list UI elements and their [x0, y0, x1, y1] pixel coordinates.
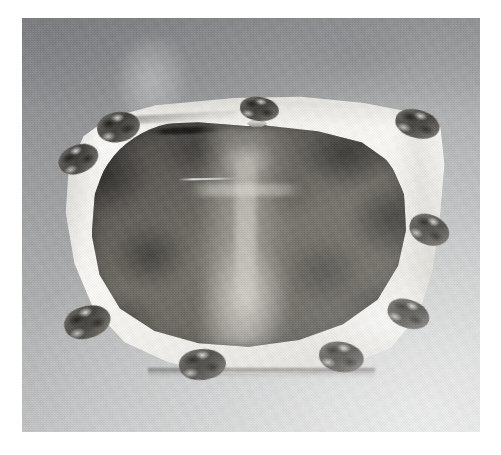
photograph — [22, 18, 480, 432]
photo-page: Irregular rounded-rectangular stretched … — [0, 0, 501, 455]
ghost-figure-crossarm — [189, 184, 304, 196]
dark-hide-panel — [92, 122, 406, 346]
stretched-rawhide-panel — [54, 94, 446, 376]
artifact-description: Irregular rounded-rectangular stretched … — [0, 0, 1, 1]
ghost-figure-head — [222, 144, 271, 178]
backdrop-dark-smudge — [297, 26, 416, 84]
